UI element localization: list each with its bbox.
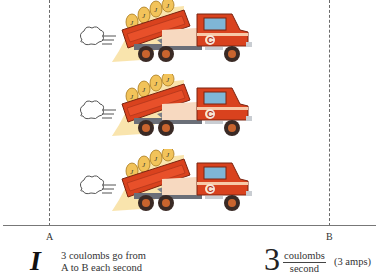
current-description: 3 coulombs go from A to B each second [61, 250, 146, 274]
point-b-label: B [326, 231, 333, 242]
point-a-label: A [46, 231, 53, 242]
dump-truck-icon: JJJJ C [72, 149, 257, 219]
svg-text:C: C [207, 35, 214, 45]
description-line-1: 3 coulombs go from [61, 250, 146, 262]
current-symbol: I [30, 247, 41, 275]
svg-text:C: C [207, 184, 214, 194]
unit-fraction: coulombs second [283, 250, 326, 275]
exhaust-cloud-icon [80, 101, 116, 119]
boundary-a-dashed-line [49, 0, 50, 226]
svg-text:C: C [207, 109, 214, 119]
ground-axis-line [3, 225, 376, 226]
dump-truck-icon: JJJJ C [72, 0, 257, 70]
dump-truck-icon: JJJJ C [72, 74, 257, 144]
unit-numerator: coulombs [283, 250, 326, 263]
unit-denominator: second [283, 263, 326, 275]
exhaust-cloud-icon [80, 27, 116, 45]
dump-truck-1: JJJJ C [72, 0, 257, 70]
exhaust-cloud-icon [80, 176, 116, 194]
boundary-b-dashed-line [329, 0, 330, 226]
dump-truck-2: JJJJ C [72, 74, 257, 144]
description-line-2: A to B each second [61, 262, 146, 274]
amps-equivalent: (3 amps) [334, 256, 371, 267]
dump-truck-3: JJJJ C [72, 149, 257, 219]
current-value: 3 [264, 243, 280, 275]
